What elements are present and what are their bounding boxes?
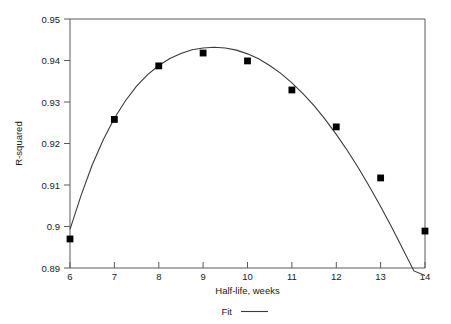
data-point-marker (244, 58, 251, 65)
y-tick-label-2: 0.91 (42, 180, 61, 191)
y-tick-label-1: 0.9 (47, 221, 60, 232)
r-squared-vs-half-life-chart: 0.89 0.9 0.91 0.92 0.93 0.94 0.95 6 7 8 … (0, 0, 451, 324)
x-axis-title: Half-life, weeks (215, 285, 280, 296)
x-tick-label-7: 13 (375, 271, 386, 282)
x-tick-label-4: 10 (242, 271, 253, 282)
x-tick-label-1: 7 (112, 271, 117, 282)
x-tick-label-5: 11 (287, 271, 297, 282)
x-tick-label-6: 12 (331, 271, 342, 282)
data-point-marker (200, 50, 207, 57)
data-point-marker (111, 116, 118, 123)
data-point-marker (333, 124, 340, 131)
y-tick-label-4: 0.93 (42, 97, 61, 108)
y-tick-label-5: 0.94 (42, 55, 61, 66)
legend-label-fit: Fit (221, 306, 232, 317)
y-tick-label-6: 0.95 (42, 14, 61, 25)
chart-figure: 0.89 0.9 0.91 0.92 0.93 0.94 0.95 6 7 8 … (0, 0, 451, 324)
x-tick-label-8: 14 (420, 271, 431, 282)
y-axis-title: R-squared (13, 121, 24, 165)
y-tick-label-0: 0.89 (42, 263, 61, 274)
x-tick-label-3: 9 (200, 271, 205, 282)
x-tick-label-0: 6 (67, 271, 72, 282)
data-point-marker (288, 87, 295, 94)
x-tick-label-2: 8 (156, 271, 161, 282)
data-point-marker (422, 228, 429, 235)
data-point-marker (377, 175, 384, 182)
y-tick-label-3: 0.92 (42, 138, 61, 149)
data-point-marker (67, 236, 74, 243)
data-point-marker (155, 62, 162, 69)
